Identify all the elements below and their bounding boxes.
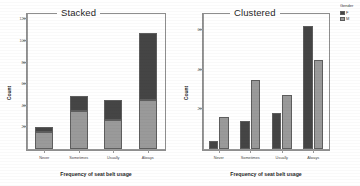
y-axis-tick-label: 60 bbox=[198, 27, 202, 32]
bar-sometimes-M[interactable] bbox=[251, 80, 260, 149]
bar-always-F[interactable] bbox=[303, 26, 312, 149]
x-axis-tick-label: Never bbox=[214, 156, 224, 161]
x-axis-tick bbox=[113, 150, 114, 153]
chart-canvas: Stacked Count 20406080100120NeverSometim… bbox=[0, 0, 360, 186]
y-axis-tick-label: 40 bbox=[22, 103, 26, 108]
bar-never-M[interactable] bbox=[219, 117, 228, 149]
legend: Gender FM bbox=[340, 3, 360, 22]
x-axis-tick-label: Usually bbox=[276, 156, 288, 161]
y-axis-tick-label: 60 bbox=[22, 82, 26, 87]
x-axis-tick bbox=[282, 150, 283, 153]
bar-always-M[interactable] bbox=[314, 60, 323, 149]
clustered-chart-panel: Clustered Count 204060NeverSometimesUsua… bbox=[176, 0, 336, 186]
x-axis-tick-label: Usually bbox=[107, 156, 119, 161]
legend-swatch-M bbox=[340, 17, 345, 21]
x-axis-tick bbox=[219, 150, 220, 153]
bar-segment-M[interactable] bbox=[104, 120, 122, 149]
clustered-plot-area: 204060NeverSometimesUsuallyAlways bbox=[203, 14, 329, 150]
bar-segment-M[interactable] bbox=[139, 100, 157, 149]
y-axis-tick-label: 20 bbox=[198, 107, 202, 112]
legend-item[interactable]: F bbox=[340, 10, 360, 15]
clustered-x-axis-line bbox=[203, 149, 329, 150]
x-axis-tick-label: Never bbox=[39, 156, 49, 161]
legend-item[interactable]: M bbox=[340, 16, 360, 21]
bar-stack-sometimes[interactable] bbox=[70, 96, 88, 149]
clustered-x-axis-title: Frequency of seat belt usage bbox=[202, 171, 330, 178]
y-axis-tick-label: 80 bbox=[22, 60, 26, 65]
legend-label-M: M bbox=[346, 16, 349, 21]
clustered-y-axis-line bbox=[203, 14, 204, 150]
x-axis-tick-label: Always bbox=[142, 156, 154, 161]
x-axis-tick-label: Always bbox=[307, 156, 319, 161]
bar-sometimes-F[interactable] bbox=[240, 121, 249, 149]
stacked-x-axis-title: Frequency of seat belt usage bbox=[26, 171, 166, 178]
x-axis-tick-label: Sometimes bbox=[69, 156, 88, 161]
bar-usually-M[interactable] bbox=[282, 95, 291, 149]
stacked-y-axis-line bbox=[27, 14, 28, 150]
bar-segment-M[interactable] bbox=[70, 111, 88, 149]
bar-segment-F[interactable] bbox=[70, 96, 88, 111]
legend-label-F: F bbox=[346, 10, 348, 15]
stacked-plot-area: 20406080100120NeverSometimesUsuallyAlway… bbox=[27, 14, 165, 150]
stacked-y-axis-title: Count bbox=[6, 86, 12, 100]
bar-stack-never[interactable] bbox=[35, 127, 53, 149]
y-axis-tick-label: 20 bbox=[22, 125, 26, 130]
x-axis-tick bbox=[79, 150, 80, 153]
bar-segment-F[interactable] bbox=[35, 127, 53, 131]
stacked-x-axis-line bbox=[27, 149, 165, 150]
bar-segment-F[interactable] bbox=[104, 100, 122, 119]
legend-title: Gender bbox=[340, 3, 360, 9]
bar-segment-F[interactable] bbox=[139, 33, 157, 100]
bar-never-F[interactable] bbox=[209, 141, 218, 149]
stacked-chart-panel: Stacked Count 20406080100120NeverSometim… bbox=[0, 0, 176, 186]
bar-stack-usually[interactable] bbox=[104, 100, 122, 149]
bar-segment-M[interactable] bbox=[35, 132, 53, 149]
x-axis-tick bbox=[250, 150, 251, 153]
clustered-y-axis-title: Count bbox=[183, 86, 189, 100]
x-axis-tick bbox=[313, 150, 314, 153]
x-axis-tick bbox=[44, 150, 45, 153]
x-axis-tick-label: Sometimes bbox=[241, 156, 260, 161]
y-axis-tick-label: 100 bbox=[20, 39, 26, 44]
y-axis-tick-label: 40 bbox=[198, 67, 202, 72]
legend-swatch-F bbox=[340, 11, 345, 15]
bar-usually-F[interactable] bbox=[272, 113, 281, 149]
x-axis-tick bbox=[148, 150, 149, 153]
y-axis-tick-label: 120 bbox=[20, 17, 26, 22]
legend-items: FM bbox=[340, 10, 360, 21]
bar-stack-always[interactable] bbox=[139, 33, 157, 149]
